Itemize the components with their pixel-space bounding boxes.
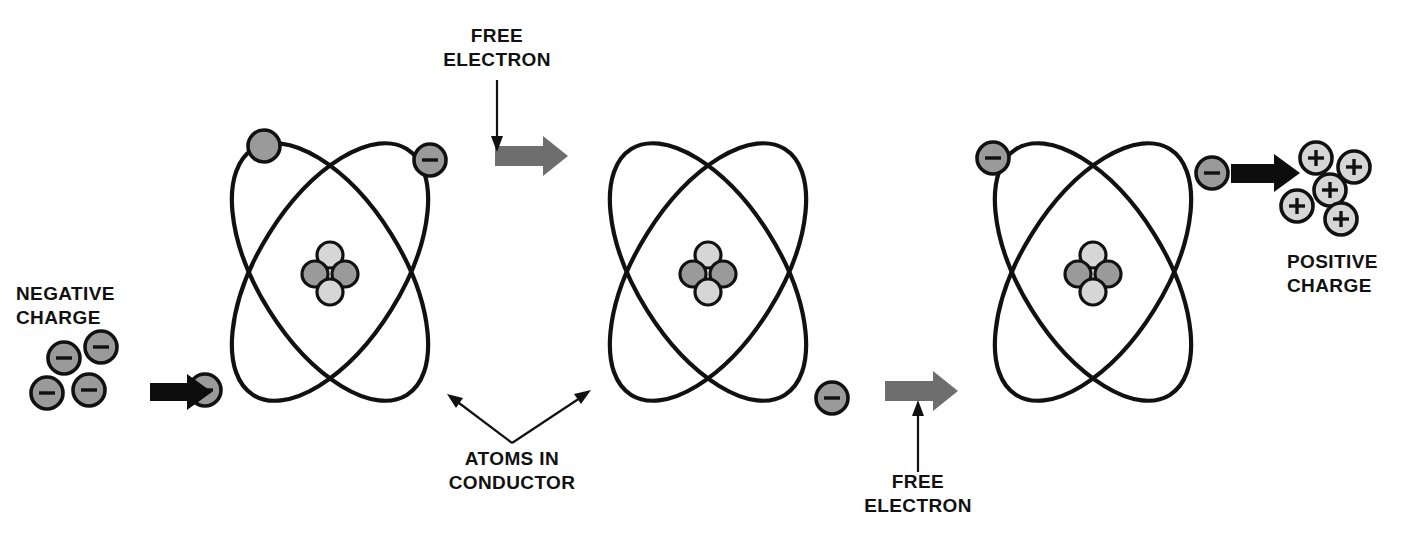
positive-charge-cluster (1281, 142, 1370, 235)
negative-charge-particle (31, 377, 63, 409)
label-line: CHARGE (16, 307, 101, 328)
label-line: ATOMS IN (465, 448, 559, 469)
leader-atoms-in-conductor (447, 390, 591, 443)
positive-charge-particle (1325, 203, 1357, 235)
label-free-electron-bottom: FREE ELECTRON (864, 471, 972, 516)
neutron (695, 279, 721, 305)
electron (977, 142, 1009, 174)
negative-charge-particle (48, 342, 80, 374)
orbit-path (570, 111, 846, 433)
nucleus (680, 242, 736, 305)
electron (248, 130, 280, 162)
electron-flow-diagram: FREE ELECTRON FREE ELECTRON NEGATIVE CHA… (0, 0, 1411, 539)
label-line: ELECTRON (864, 495, 972, 516)
nucleus (302, 242, 358, 305)
negative-charge-particle (85, 331, 117, 363)
gray-arrow-top (495, 136, 568, 176)
positive-charge-particle (1281, 190, 1313, 222)
electron (1196, 157, 1228, 189)
label-line: CHARGE (1287, 275, 1372, 296)
atom-left (189, 111, 468, 433)
black-arrow-right (1231, 154, 1300, 192)
positive-charge-particle (1300, 142, 1332, 174)
label-line: ELECTRON (443, 49, 551, 70)
neutron (317, 279, 343, 305)
label-atoms-in-conductor: ATOMS IN CONDUCTOR (449, 448, 576, 493)
neutron (1080, 279, 1106, 305)
atom-middle (570, 111, 848, 433)
gray-arrow-bottom (885, 371, 958, 411)
negative-charge-cluster (31, 331, 117, 409)
label-free-electron-top: FREE ELECTRON (443, 25, 551, 70)
electron (816, 382, 848, 414)
atom-right (955, 111, 1231, 433)
orbit-path (570, 111, 846, 433)
label-line: FREE (892, 471, 944, 492)
diagram-canvas: FREE ELECTRON FREE ELECTRON NEGATIVE CHA… (0, 0, 1411, 539)
label-line: FREE (471, 25, 523, 46)
label-line: NEGATIVE (16, 283, 115, 304)
label-negative-charge: NEGATIVE CHARGE (16, 283, 115, 328)
negative-charge-particle (73, 374, 105, 406)
label-line: POSITIVE (1287, 251, 1378, 272)
label-positive-charge: POSITIVE CHARGE (1287, 251, 1378, 296)
label-line: CONDUCTOR (449, 472, 576, 493)
leader-free-electron-bottom (912, 400, 924, 472)
leader-free-electron-top (491, 80, 503, 152)
electron (414, 144, 446, 176)
positive-charge-particle (1314, 174, 1346, 206)
nucleus (1065, 242, 1121, 305)
